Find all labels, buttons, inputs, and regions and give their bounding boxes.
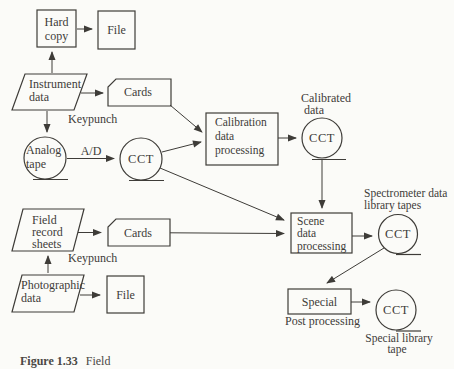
node-cct-special: CCT (376, 290, 421, 331)
cct-calibrated-label: CCT (309, 131, 335, 145)
arrow-cards-to-calibration (170, 105, 202, 132)
calibration-label-line3: processing (215, 144, 264, 157)
node-cards-bottom: Cards (108, 219, 170, 246)
ad-converter-label: A/D (81, 144, 102, 158)
arrow-cards-to-scene (170, 233, 284, 234)
node-field-record-sheets: Field record sheets (12, 209, 84, 251)
calibrated-data-annotation: Calibrated data (301, 91, 351, 117)
node-cct-spectrometer: CCT (379, 215, 422, 255)
special-library-annotation: Special library tape (365, 332, 433, 356)
file-bottom-label: File (116, 288, 135, 302)
arrow-cct-to-calibration (162, 142, 201, 152)
figure-caption: Figure 1.33Field (20, 354, 440, 369)
photographic-label-line1: Photographic (21, 278, 85, 292)
node-file-bottom: File (107, 276, 144, 313)
calibrated-data-line2: data (304, 103, 325, 117)
figure-caption-number: Figure 1.33 (20, 354, 78, 368)
node-instrument-data: Instrument data (12, 74, 87, 110)
node-calibration-processing: Calibration data processing (206, 113, 278, 165)
spectrometer-tapes-line2: library tapes (364, 199, 422, 212)
keypunch-top-label: Keypunch (68, 112, 117, 126)
scene-label-line2: data (297, 227, 316, 239)
post-processing-label: Post processing (285, 314, 360, 328)
field-record-label-line3: sheets (32, 237, 62, 251)
analog-tape-label-line1: Analog (26, 143, 61, 157)
node-cct-calibrated: CCT (302, 118, 346, 160)
spectrometer-tapes-annotation: Spectrometer data library tapes (364, 187, 447, 212)
photographic-label-line2: data (21, 291, 42, 305)
special-label: Special (302, 295, 338, 309)
node-cct-main: CCT (120, 138, 164, 181)
calibration-label-line1: Calibration (215, 116, 267, 128)
hard-copy-label-line1: Hard (45, 15, 69, 29)
node-analog-tape: Analog tape (24, 137, 68, 180)
node-hard-copy: Hard copy (37, 10, 76, 47)
analog-tape-label-line2: tape (26, 157, 46, 171)
node-cards-top: Cards (108, 79, 171, 106)
cct-main-label: CCT (128, 152, 154, 166)
cards-bottom-label: Cards (124, 226, 152, 240)
node-scene-processing: Scene data processing (291, 213, 352, 253)
cards-top-label: Cards (124, 85, 152, 99)
cct-spectrometer-label: CCT (385, 227, 411, 241)
node-photographic-data: Photographic data (12, 275, 85, 312)
file-top-label: File (107, 23, 126, 37)
node-special: Special (288, 289, 351, 314)
hard-copy-label-line2: copy (45, 29, 68, 43)
scene-label-line3: processing (297, 240, 346, 253)
arrow-cct-to-scene (160, 168, 284, 220)
cct-special-label: CCT (383, 303, 409, 317)
scene-label-line1: Scene (297, 215, 324, 227)
node-file-top: File (98, 11, 135, 49)
figure-caption-text: Field (86, 354, 111, 368)
calibration-label-line2: data (215, 130, 234, 142)
keypunch-bottom-label: Keypunch (68, 251, 117, 265)
instrument-label-line2: data (29, 90, 50, 104)
instrument-label-line1: Instrument (29, 77, 82, 91)
